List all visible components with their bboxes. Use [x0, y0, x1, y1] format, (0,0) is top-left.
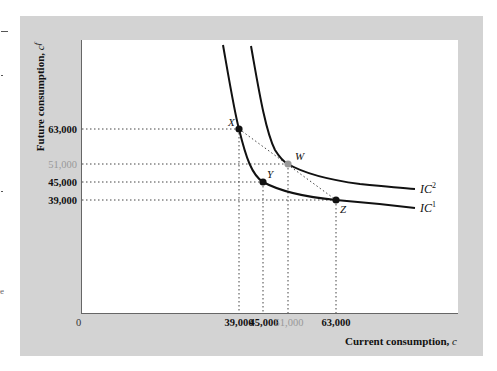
point-z-label: Z [340, 203, 346, 215]
ic1-label-text: IC [420, 201, 432, 215]
ic1-label-sup: 1 [432, 200, 436, 209]
ic2-label-sup: 2 [432, 181, 436, 190]
point-y [259, 178, 266, 185]
point-w-label: W [295, 150, 304, 162]
point-x-label: X [228, 116, 235, 128]
point-x [235, 125, 242, 132]
ic2-curve [251, 46, 415, 189]
ic2-label-text: IC [420, 182, 432, 196]
point-y-label: Y [267, 168, 273, 180]
point-w [284, 160, 291, 167]
ic1-curve [223, 45, 415, 208]
point-z [332, 196, 339, 203]
ic2-label: IC2 [420, 181, 436, 197]
ic1-label: IC1 [420, 200, 436, 216]
